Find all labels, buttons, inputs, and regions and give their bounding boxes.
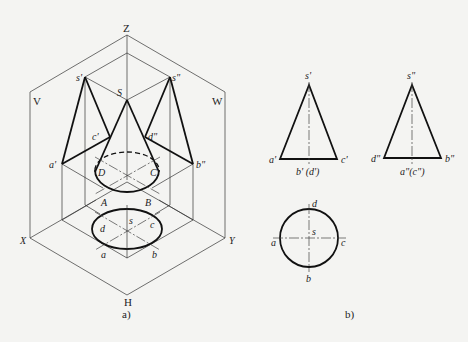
label-tv-center: s xyxy=(312,226,316,237)
label-b-w: b" xyxy=(196,159,206,170)
label-fv-bottom: b' (d') xyxy=(296,166,320,178)
figure-b: s' a' c' b' (d') s" d" b" a"(c") d s a c… xyxy=(269,70,455,321)
label-sv-apex: s" xyxy=(407,70,416,81)
figure-a: Z V W X Y H s' s" S c' d" a' b" D C A B … xyxy=(19,22,236,321)
cone-projection-diagram: Z V W X Y H s' s" S c' d" a' b" D C A B … xyxy=(0,0,468,342)
label-c-v: c' xyxy=(92,131,99,142)
h-line-d xyxy=(155,205,170,214)
y-label: Y xyxy=(229,235,236,246)
label-fv-apex: s' xyxy=(305,70,312,81)
label-tv-right: c xyxy=(341,237,346,248)
h-plane-label: H xyxy=(124,296,132,308)
w-plane-label: W xyxy=(212,95,223,107)
v-plane-label: V xyxy=(33,95,41,107)
h-line-b xyxy=(127,220,193,258)
label-B: B xyxy=(145,197,151,208)
label-fv-right: c' xyxy=(341,154,348,165)
label-sv-bottom: a"(c") xyxy=(400,166,425,178)
label-b-h: b xyxy=(152,249,157,260)
label-tv-bottom: b xyxy=(306,273,311,284)
label-sv-right: b" xyxy=(445,153,455,164)
label-tv-top: d xyxy=(312,198,318,209)
label-A: A xyxy=(100,197,108,208)
label-D: D xyxy=(97,167,106,178)
label-fv-left: a' xyxy=(269,154,277,165)
top-rhombus xyxy=(85,53,170,100)
label-a-h: a xyxy=(101,249,106,260)
label-sv-left: d" xyxy=(371,153,381,164)
z-label: Z xyxy=(123,22,130,34)
front-view-triangle xyxy=(280,85,337,159)
caption-b: b) xyxy=(345,308,355,321)
label-s-v: s' xyxy=(76,72,83,83)
label-c-h: c xyxy=(150,219,155,230)
h-line-a xyxy=(62,220,127,258)
label-s-h: s xyxy=(129,215,133,226)
label-s-w: s" xyxy=(172,72,181,83)
label-S: S xyxy=(117,87,122,98)
side-view-triangle xyxy=(384,85,441,158)
label-d-h: d xyxy=(100,223,106,234)
h-line-c xyxy=(85,205,100,214)
h-link-1 xyxy=(62,200,96,220)
h-link-2 xyxy=(159,200,193,220)
label-C: C xyxy=(150,167,157,178)
label-a-v: a' xyxy=(49,159,57,170)
x-label: X xyxy=(19,235,27,246)
caption-a: a) xyxy=(122,308,131,321)
label-d-w: d" xyxy=(148,131,158,142)
label-tv-left: a xyxy=(271,237,276,248)
